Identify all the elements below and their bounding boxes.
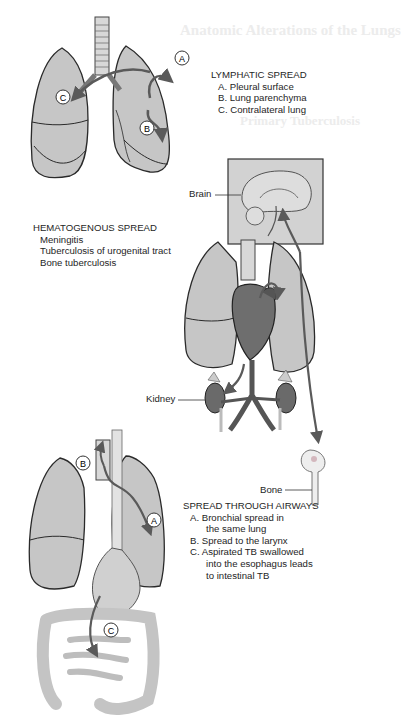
lymphatic-title: LYMPHATIC SPREAD	[211, 69, 307, 81]
hematogenous-illustration	[178, 159, 325, 505]
lymphatic-marker-a: A	[175, 51, 189, 65]
hematogenous-item-meningitis: Meningitis	[33, 234, 171, 246]
airways-item-a-cont: the same lung	[183, 523, 319, 535]
lymphatic-item-b: B. Lung parenchyma	[211, 92, 307, 104]
airways-marker-b: B	[76, 456, 90, 470]
svg-text:B: B	[80, 459, 86, 469]
kidney-label: Kidney	[146, 393, 175, 404]
brain-label: Brain	[189, 188, 211, 199]
lymphatic-legend: LYMPHATIC SPREAD A. Pleural surface B. L…	[211, 69, 307, 115]
airways-item-b: B. Spread to the larynx	[183, 535, 319, 547]
bone-label: Bone	[260, 484, 282, 495]
lymphatic-marker-b: B	[140, 121, 154, 135]
svg-text:B: B	[144, 124, 150, 134]
airways-item-a: A. Bronchial spread in	[183, 512, 319, 524]
lymphatic-item-a: A. Pleural surface	[211, 81, 307, 93]
lymphatic-lungs-illustration: A B C	[31, 17, 189, 178]
hematogenous-title: HEMATOGENOUS SPREAD	[33, 222, 171, 234]
airways-item-c-cont1: into the esophagus leads	[183, 558, 319, 570]
svg-text:C: C	[108, 626, 115, 636]
hematogenous-item-urogenital: Tuberculosis of urogenital tract	[33, 245, 171, 257]
lymphatic-item-c: C. Contralateral lung	[211, 104, 307, 116]
svg-text:C: C	[60, 93, 67, 103]
hematogenous-legend: HEMATOGENOUS SPREAD Meningitis Tuberculo…	[33, 222, 171, 268]
lymphatic-marker-c: C	[56, 90, 70, 104]
airways-illustration: A B C	[29, 430, 164, 709]
airways-title: SPREAD THROUGH AIRWAYS	[183, 500, 319, 512]
airways-item-c: C. Aspirated TB swallowed	[183, 546, 319, 558]
airways-legend: SPREAD THROUGH AIRWAYS A. Bronchial spre…	[183, 500, 319, 581]
airways-item-c-cont2: to intestinal TB	[183, 570, 319, 582]
hematogenous-item-bone: Bone tuberculosis	[33, 257, 171, 269]
airways-marker-c: C	[104, 623, 118, 637]
airways-marker-a: A	[147, 513, 161, 527]
svg-text:A: A	[151, 516, 157, 526]
svg-text:A: A	[179, 54, 185, 64]
